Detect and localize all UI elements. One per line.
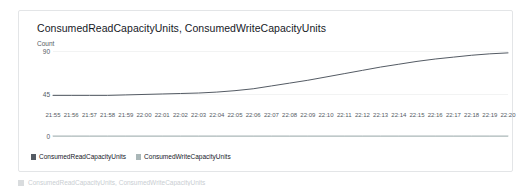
x-axis: 21:5521:5621:5721:5821:5922:0022:0122:02… [53, 111, 529, 121]
x-tick-label: 22:17 [446, 111, 461, 119]
x-tick-label: 22:07 [264, 111, 279, 119]
x-tick-label: 22:00 [136, 111, 151, 119]
x-tick-label: 22:09 [300, 111, 315, 119]
chart-area: Count 04590 [19, 40, 512, 150]
legend-item-label: ConsumedWriteCapacityUnits [144, 153, 231, 161]
x-tick-label: 21:56 [64, 111, 79, 119]
x-tick-label: 22:01 [155, 111, 170, 119]
legend-swatch-icon [31, 154, 36, 160]
x-tick-label: 22:18 [464, 111, 479, 119]
legend-item[interactable]: ConsumedReadCapacityUnits [31, 153, 126, 161]
x-tick-label: 21:59 [118, 111, 133, 119]
legend-swatch-icon [18, 180, 24, 186]
x-tick-label: 21:58 [100, 111, 115, 119]
x-tick-label: 22:16 [428, 111, 443, 119]
plot-region: 04590 [53, 51, 508, 136]
x-tick-label: 22:14 [391, 111, 406, 119]
x-tick-label: 22:19 [482, 111, 497, 119]
legend-swatch-icon [136, 154, 141, 160]
y-tick-label: 0 [46, 133, 50, 140]
chart-legend: ConsumedReadCapacityUnitsConsumedWriteCa… [31, 153, 231, 161]
series-lines [53, 51, 508, 136]
x-tick-label: 22:04 [209, 111, 224, 119]
x-tick-label: 22:15 [409, 111, 424, 119]
x-tick-label: 22:13 [373, 111, 388, 119]
x-tick-label: 22:05 [227, 111, 242, 119]
x-tick-label: 21:57 [82, 111, 97, 119]
x-tick-label: 21:55 [45, 111, 60, 119]
clipped-legend-strip: ConsumedReadCapacityUnits, ConsumedWrite… [18, 180, 513, 186]
x-tick-label: 22:10 [318, 111, 333, 119]
legend-item[interactable]: ConsumedWriteCapacityUnits [136, 153, 231, 161]
x-tick-label: 22:02 [173, 111, 188, 119]
metric-widget-card: ConsumedReadCapacityUnits, ConsumedWrite… [18, 10, 513, 172]
x-tick-label: 22:06 [246, 111, 261, 119]
legend-item-label: ConsumedReadCapacityUnits [39, 153, 126, 161]
clipped-legend-label: ConsumedReadCapacityUnits, ConsumedWrite… [28, 180, 205, 186]
series-line [53, 53, 508, 96]
x-tick-label: 22:03 [191, 111, 206, 119]
screenshot-root: ConsumedReadCapacityUnits, ConsumedWrite… [0, 0, 529, 186]
y-tick-label: 45 [43, 90, 50, 97]
y-tick-label: 90 [43, 48, 50, 55]
x-tick-label: 22:08 [282, 111, 297, 119]
page-title: ConsumedReadCapacityUnits, ConsumedWrite… [37, 22, 326, 35]
x-tick-label: 22:12 [355, 111, 370, 119]
x-tick-label: 22:11 [337, 111, 352, 119]
x-tick-label: 22:20 [500, 111, 515, 119]
